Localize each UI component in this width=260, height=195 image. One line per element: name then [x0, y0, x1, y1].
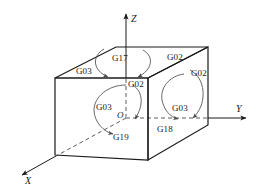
arc-label-g03-top-left: G03 [76, 67, 92, 76]
arc-g03-top [95, 49, 108, 77]
plane-label-g19: G19 [113, 133, 129, 142]
plane-label-g17: G17 [112, 54, 128, 63]
axis-label-x: X [25, 176, 31, 186]
figure-canvas: Z Y X O G17 G02 G03 G02 G03 G19 G02 G03 … [0, 0, 260, 195]
arc-label-g03-right: G03 [172, 104, 188, 113]
axis-label-z: Z [131, 14, 137, 24]
arc-g02-front [133, 85, 141, 119]
diagram-svg [0, 0, 260, 195]
plane-label-g18: G18 [157, 125, 173, 134]
arc-g02-top [138, 50, 150, 77]
origin-label: O [117, 111, 124, 120]
axis-label-y: Y [236, 104, 242, 114]
axis-x-line [22, 156, 56, 175]
arc-label-g02-right: G02 [191, 69, 207, 78]
arc-label-g02-top-right: G02 [167, 53, 183, 62]
arc-label-g02-top-front: G02 [128, 80, 144, 89]
arc-label-g03-front: G03 [96, 103, 112, 112]
